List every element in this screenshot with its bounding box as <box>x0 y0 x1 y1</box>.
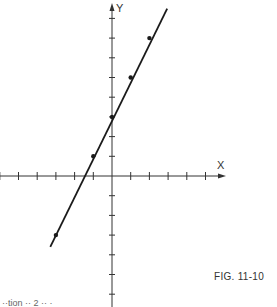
y-axis-label: Y <box>116 2 123 14</box>
y-axis <box>109 3 115 307</box>
data-point <box>91 154 95 158</box>
data-point <box>110 115 114 119</box>
data-point <box>54 233 58 237</box>
coordinate-plane <box>0 0 277 307</box>
x-axis-label: X <box>217 159 224 171</box>
data-point <box>129 75 133 79</box>
data-line <box>50 9 167 247</box>
x-axis <box>0 172 226 180</box>
data-point <box>147 36 151 40</box>
cropped-text-fragment: ··tion ·· 2 ·· · <box>2 298 53 307</box>
figure-caption: FIG. 11-10 <box>214 271 264 282</box>
data-points <box>54 36 152 237</box>
